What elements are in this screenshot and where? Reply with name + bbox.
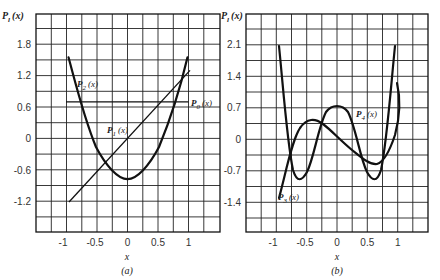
p0-label: P0(x): [191, 98, 212, 111]
y-tick-a: 0: [25, 133, 31, 144]
panel-b: 2.1 1.4 0.7 0 -0.7 -1.4 -1 -0.5 0 0.5 1 …: [221, 10, 428, 277]
y-tick-b: 0.7: [227, 102, 241, 113]
y-tick-a: 1.2: [17, 70, 31, 81]
x-tick-a: 1: [186, 237, 192, 248]
p3-curve: [279, 83, 399, 198]
x-axis-label-a: x: [124, 251, 130, 262]
x-tick-a: 0: [125, 237, 131, 248]
y-tick-b: 0: [235, 134, 241, 145]
legendre-figure: 1.8 1.2 0.6 0 -0.6 -1.2 -1 -0.5 0 0.5 1 …: [0, 0, 440, 280]
p2-label: P2(x): [77, 79, 98, 92]
panel-a-grid: [36, 14, 220, 232]
panel-caption-a: (a): [121, 265, 133, 277]
x-tick-b: -0.5: [296, 237, 314, 248]
y-tick-b: 1.4: [227, 71, 241, 82]
x-tick-b: -1: [269, 237, 278, 248]
panel-b-grid: [246, 14, 428, 232]
x-axis-label-b: x: [334, 251, 340, 262]
x-tick-b: 0.5: [360, 237, 374, 248]
panel-a: 1.8 1.2 0.6 0 -0.6 -1.2 -1 -0.5 0 0.5 1 …: [2, 10, 220, 277]
x-tick-a: 0.5: [151, 237, 165, 248]
x-tick-b: 1: [395, 237, 401, 248]
y-tick-a: 0.6: [17, 102, 31, 113]
x-tick-a: -1: [59, 237, 68, 248]
x-tick-b: 0: [334, 237, 340, 248]
y-axis-label-b: Pl(x): [221, 10, 243, 24]
y-tick-b: -1.4: [224, 197, 242, 208]
y-tick-b: -0.7: [224, 165, 242, 176]
p1-label: P1(x): [107, 125, 128, 138]
panel-caption-b: (b): [331, 265, 343, 277]
y-axis-label-a: Pl(x): [2, 10, 24, 24]
y-tick-a: -0.6: [14, 165, 32, 176]
y-tick-a: 1.8: [17, 39, 31, 50]
p4-label: P4(x): [356, 109, 377, 122]
y-tick-a: -1.2: [14, 196, 32, 207]
y-tick-b: 2.1: [227, 39, 241, 50]
p1-line: [69, 70, 190, 202]
x-tick-a: -0.5: [86, 237, 104, 248]
